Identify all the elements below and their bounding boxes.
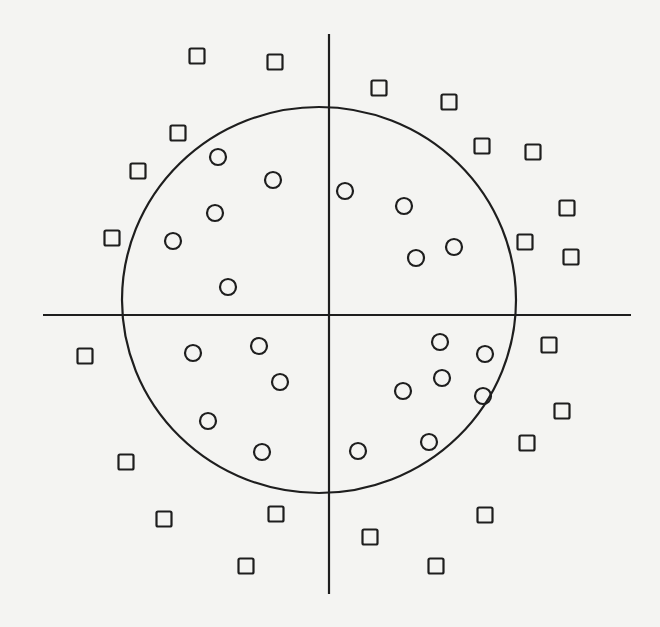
classification-diagram bbox=[0, 0, 660, 627]
diagram-canvas bbox=[0, 0, 660, 627]
